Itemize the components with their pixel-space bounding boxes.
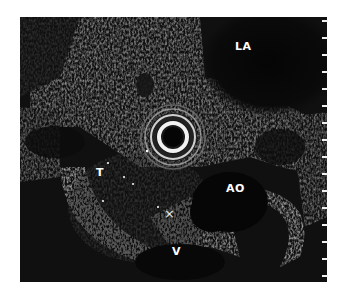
ultrasound-scan-graphic <box>20 17 327 282</box>
label-left-atrium: LA <box>235 40 252 53</box>
depth-scale <box>322 18 328 280</box>
label-aorta: AO <box>226 182 245 195</box>
caliper-marker: × <box>164 206 175 221</box>
transducer-probe <box>141 105 205 169</box>
label-vessel: V <box>172 245 181 258</box>
ultrasound-image <box>20 17 327 282</box>
label-tumor: T <box>96 166 104 179</box>
